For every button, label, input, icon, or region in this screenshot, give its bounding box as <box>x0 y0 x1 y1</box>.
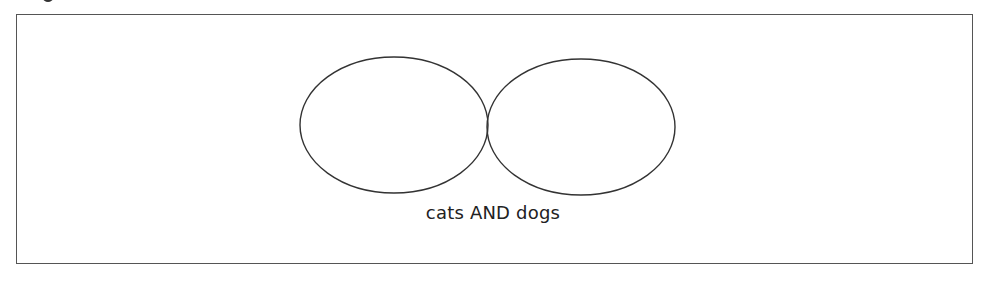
intersection-hatch <box>336 50 614 190</box>
venn-label: cats AND dogs <box>0 202 986 223</box>
set-cats-ellipse <box>300 57 488 193</box>
venn-diagram <box>0 0 992 286</box>
set-dogs-ellipse <box>487 59 675 195</box>
